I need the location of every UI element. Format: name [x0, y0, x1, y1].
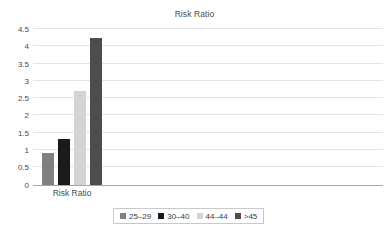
y-axis-tick-label: 0.5: [0, 163, 29, 172]
legend-swatch-icon: [158, 213, 164, 219]
bar-30-40[interactable]: [58, 139, 70, 185]
x-axis-category-labels: Risk Ratio: [33, 188, 383, 202]
y-axis-tick-label: 3.5: [0, 59, 29, 68]
bar-group: [33, 29, 383, 185]
legend-label: 25–29: [129, 212, 151, 221]
bar-44-44[interactable]: [74, 91, 86, 184]
y-axis-tick-labels: 4.543.532.521.510.50: [0, 29, 29, 186]
legend-item[interactable]: 25–29: [120, 212, 151, 221]
legend-label: 30–40: [167, 212, 189, 221]
chart-title: Risk Ratio: [0, 9, 389, 20]
x-axis-category-label: Risk Ratio: [42, 188, 102, 199]
y-axis-tick-label: 2: [0, 111, 29, 120]
bar-45[interactable]: [90, 38, 102, 185]
y-axis-tick-label: 4.5: [0, 25, 29, 34]
chart-legend: 25–2930–4044–44>45: [113, 208, 264, 224]
legend-item[interactable]: 30–40: [158, 212, 189, 221]
plot-area: [33, 29, 383, 186]
legend-swatch-icon: [235, 213, 241, 219]
y-axis-tick-label: 0: [0, 180, 29, 189]
legend-label: >45: [244, 212, 258, 221]
y-axis-tick-label: 4: [0, 42, 29, 51]
risk-ratio-bar-chart: Risk Ratio 4.543.532.521.510.50 Risk Rat…: [0, 0, 389, 241]
x-axis-line: [33, 185, 383, 187]
legend-swatch-icon: [197, 213, 203, 219]
bar-25-29[interactable]: [42, 153, 54, 185]
legend-swatch-icon: [120, 213, 126, 219]
legend-item[interactable]: 44–44: [197, 212, 228, 221]
y-axis-tick-label: 1: [0, 145, 29, 154]
y-axis-tick-label: 3: [0, 76, 29, 85]
legend-label: 44–44: [206, 212, 228, 221]
y-axis-tick-label: 1.5: [0, 128, 29, 137]
y-axis-tick-label: 2.5: [0, 94, 29, 103]
legend-item[interactable]: >45: [235, 212, 258, 221]
